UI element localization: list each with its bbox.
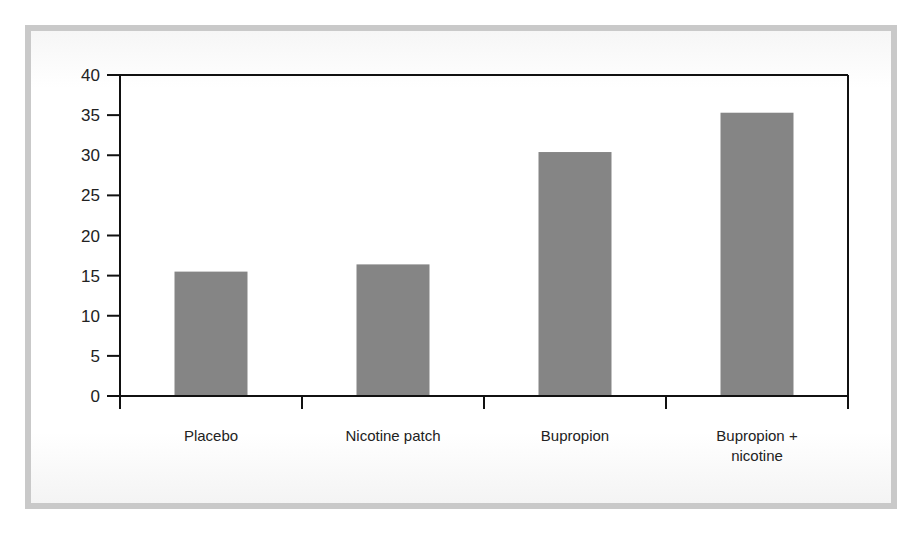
x-category-label: Bupropion + bbox=[716, 427, 798, 444]
y-tick-label: 0 bbox=[91, 387, 100, 406]
x-category-label: Nicotine patch bbox=[345, 427, 440, 444]
bar-chart: 0510152025303540PlaceboNicotine patchBup… bbox=[0, 0, 919, 534]
y-tick-label: 30 bbox=[81, 146, 100, 165]
y-tick-label: 20 bbox=[81, 227, 100, 246]
bar-nicotine-patch bbox=[357, 264, 430, 396]
bar-bupropion bbox=[539, 152, 612, 396]
x-category-label: nicotine bbox=[731, 447, 783, 464]
bar-placebo bbox=[175, 272, 248, 396]
y-tick-label: 5 bbox=[91, 347, 100, 366]
y-tick-label: 15 bbox=[81, 267, 100, 286]
y-tick-label: 40 bbox=[81, 66, 100, 85]
y-tick-label: 25 bbox=[81, 186, 100, 205]
x-category-label: Bupropion bbox=[541, 427, 609, 444]
bar-bupropion-nicotine bbox=[721, 113, 794, 396]
y-tick-label: 10 bbox=[81, 307, 100, 326]
x-category-label: Placebo bbox=[184, 427, 238, 444]
y-tick-label: 35 bbox=[81, 106, 100, 125]
